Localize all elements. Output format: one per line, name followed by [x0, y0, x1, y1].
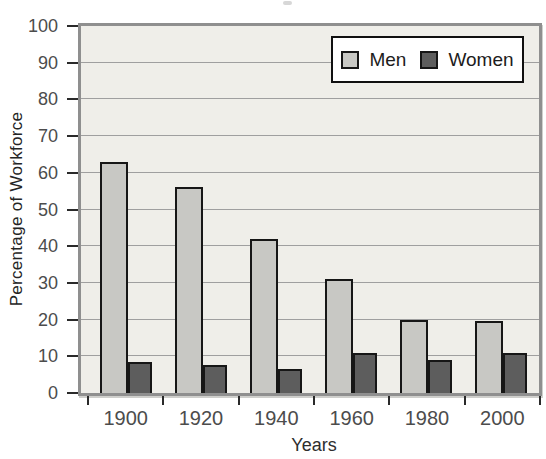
- x-axis-ticks: [88, 396, 540, 405]
- y-tick-80: [67, 98, 78, 100]
- x-tick-0: [87, 396, 89, 405]
- y-tick-90: [67, 62, 78, 64]
- y-tick-100: [67, 25, 78, 27]
- legend: Men Women: [331, 36, 524, 83]
- y-tick-label-50: 50: [38, 201, 58, 219]
- bar-women-1920: [203, 365, 227, 393]
- y-tick-60: [67, 172, 78, 174]
- x-axis-label-1900: 1900: [88, 407, 163, 429]
- bar-group-1940: [238, 26, 313, 393]
- x-tick-5: [464, 396, 466, 405]
- x-axis-label-2000: 2000: [465, 407, 540, 429]
- plot-area: Men Women: [78, 23, 542, 396]
- bar-men-1920: [175, 187, 203, 393]
- y-tick-label-10: 10: [38, 347, 58, 365]
- y-tick-50: [67, 209, 78, 211]
- x-tick-6: [539, 396, 541, 405]
- men-swatch-icon: [341, 51, 359, 69]
- y-tick-label-70: 70: [38, 127, 58, 145]
- y-tick-10: [67, 355, 78, 357]
- legend-item-men: Men: [341, 50, 406, 69]
- x-axis-label-1940: 1940: [239, 407, 314, 429]
- x-axis-label-1920: 1920: [163, 407, 238, 429]
- legend-item-women: Women: [420, 50, 513, 69]
- y-tick-label-60: 60: [38, 164, 58, 182]
- x-tick-3: [313, 396, 315, 405]
- y-tick-70: [67, 135, 78, 137]
- bar-men-1940: [250, 239, 278, 393]
- y-axis: 0102030405060708090100: [0, 26, 78, 393]
- bar-men-1960: [325, 279, 353, 393]
- y-tick-label-100: 100: [28, 17, 58, 35]
- bar-women-2000: [503, 353, 527, 393]
- bar-men-2000: [475, 321, 503, 393]
- y-tick-label-20: 20: [38, 311, 58, 329]
- x-axis-labels: 190019201940196019802000: [88, 407, 540, 429]
- x-axis-title: Years: [88, 435, 540, 456]
- y-tick-40: [67, 245, 78, 247]
- bar-men-1980: [400, 320, 428, 393]
- y-tick-20: [67, 319, 78, 321]
- bar-women-1900: [128, 362, 152, 393]
- y-tick-label-40: 40: [38, 237, 58, 255]
- x-axis-label-1960: 1960: [314, 407, 389, 429]
- x-tick-1: [162, 396, 164, 405]
- y-tick-label-0: 0: [48, 384, 58, 402]
- x-tick-4: [388, 396, 390, 405]
- y-tick-label-80: 80: [38, 90, 58, 108]
- bar-group-1920: [163, 26, 238, 393]
- bar-group-1900: [88, 26, 163, 393]
- x-tick-2: [238, 396, 240, 405]
- workforce-bar-chart: Percentage of Workforce 0102030405060708…: [0, 0, 546, 459]
- y-tick-label-30: 30: [38, 274, 58, 292]
- bar-men-1900: [100, 162, 128, 393]
- bar-women-1980: [428, 360, 452, 393]
- women-swatch-icon: [420, 51, 438, 69]
- y-tick-30: [67, 282, 78, 284]
- y-tick-0: [67, 392, 78, 394]
- bar-women-1960: [353, 353, 377, 393]
- legend-label-men: Men: [369, 50, 406, 69]
- legend-label-women: Women: [448, 50, 513, 69]
- scan-artifact: [283, 1, 292, 5]
- bar-women-1940: [278, 369, 302, 393]
- x-axis-label-1980: 1980: [389, 407, 464, 429]
- y-tick-label-90: 90: [38, 54, 58, 72]
